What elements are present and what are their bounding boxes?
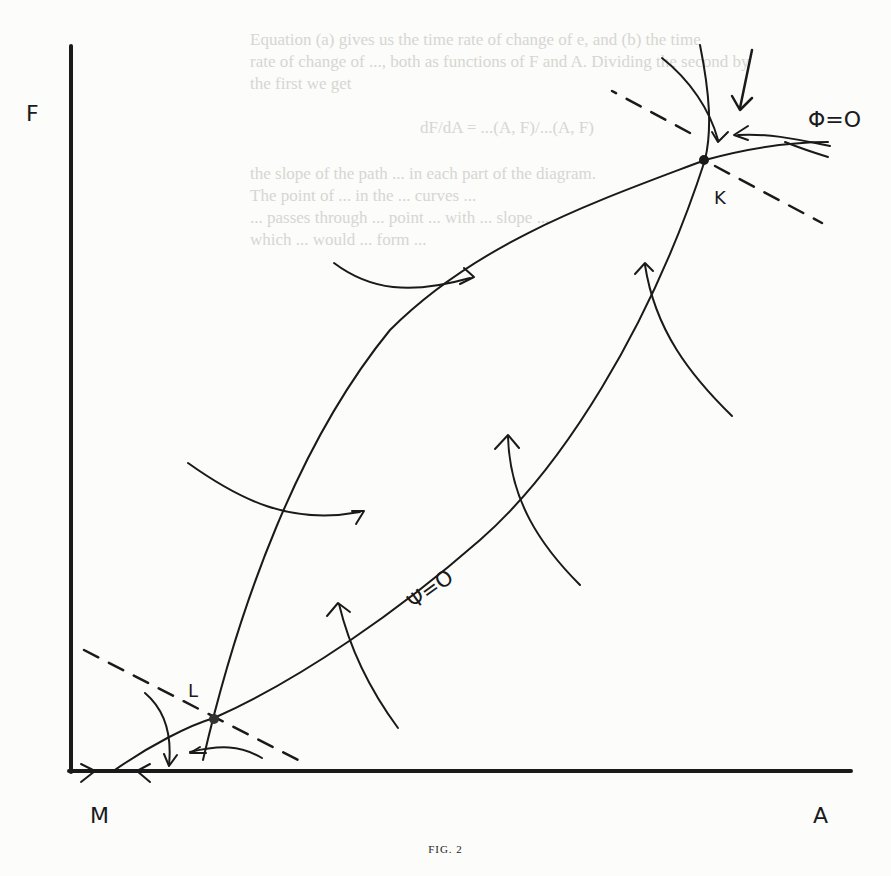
trajectory-l-left bbox=[145, 693, 170, 765]
equilibrium-point-k bbox=[699, 155, 709, 165]
trajectory-arrow bbox=[334, 263, 470, 288]
separatrix-l bbox=[84, 650, 302, 762]
psi-curve-label: Ψ=O bbox=[403, 565, 458, 614]
separatrix-k bbox=[715, 166, 822, 223]
figure-caption: FIG. 2 bbox=[0, 843, 891, 855]
trajectory-arrow bbox=[188, 463, 360, 515]
phi-curve-label: Φ=O bbox=[808, 107, 861, 132]
arrowhead bbox=[495, 435, 519, 449]
origin-label: M bbox=[90, 803, 109, 828]
x-axis-label: A bbox=[813, 803, 828, 828]
trajectory-arrow bbox=[645, 265, 732, 416]
psi-curve bbox=[112, 45, 709, 772]
arrowhead bbox=[734, 126, 748, 140]
arrowhead bbox=[712, 132, 728, 142]
separatrix-k bbox=[612, 91, 690, 133]
trajectory-arrow bbox=[508, 437, 580, 585]
equilibrium-point-l bbox=[209, 714, 219, 724]
point-label-l: L bbox=[188, 680, 198, 701]
arrowhead bbox=[635, 263, 653, 274]
y-axis-label: F bbox=[26, 101, 39, 126]
point-label-k: K bbox=[714, 187, 727, 208]
trajectory-arrow bbox=[339, 604, 398, 728]
phase-diagram: F A M K L Φ=O Ψ=O bbox=[0, 0, 891, 876]
phi-curve bbox=[203, 142, 828, 760]
